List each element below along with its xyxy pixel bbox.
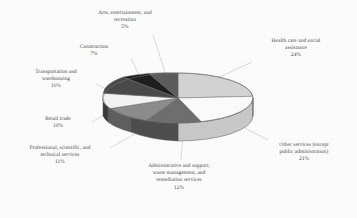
pie-label-transportation-warehousing-percent: 10%: [10, 83, 102, 90]
pie-label-professional-scientific: Professional, scientific, and technical …: [4, 145, 116, 167]
pie-label-administrative-support-percent: 12%: [118, 185, 240, 192]
leader-line-arts: [153, 35, 166, 75]
pie-label-other-services-line2: public administration): [254, 149, 354, 156]
pie-label-health-care-line2: assistance: [244, 45, 348, 52]
pie-label-administrative-support-line1: Administrative and support,: [118, 163, 240, 170]
pie-label-health-care: Health care and social assistance 24%: [244, 38, 348, 60]
pie-label-health-care-percent: 24%: [244, 52, 348, 59]
pie-label-transportation-warehousing-line1: Transportation and: [10, 69, 102, 76]
pie-label-professional-scientific-line2: technical services: [4, 152, 116, 159]
pie-label-arts-entertainment: Arts, entertainment, and recreation 5%: [70, 10, 180, 32]
pie-label-administrative-support-line3: remediation services: [118, 177, 240, 184]
pie-label-retail-trade-percent: 10%: [18, 123, 98, 130]
pie-label-arts-entertainment-percent: 5%: [70, 24, 180, 31]
pie-label-construction-percent: 7%: [52, 51, 136, 58]
pie-label-other-services: Other services (except public administra…: [254, 142, 354, 164]
pie-label-arts-entertainment-line2: recreation: [70, 17, 180, 24]
pie-label-other-services-line1: Other services (except: [254, 142, 354, 149]
pie-slice-health: [178, 73, 253, 98]
pie-label-transportation-warehousing-line2: warehousing: [10, 76, 102, 83]
pie-label-health-care-line1: Health care and social: [244, 38, 348, 45]
pie-chart-figure: Health care and social assistance 24% Ot…: [0, 0, 357, 218]
pie-label-construction-line1: Construction: [52, 44, 136, 51]
pie-label-transportation-warehousing: Transportation and warehousing 10%: [10, 69, 102, 91]
pie-label-arts-entertainment-line1: Arts, entertainment, and: [70, 10, 180, 17]
pie-label-construction: Construction 7%: [52, 44, 136, 58]
pie-label-retail-trade-line1: Retail trade: [18, 116, 98, 123]
pie-label-professional-scientific-percent: 11%: [4, 159, 116, 166]
pie-label-administrative-support: Administrative and support, waste manage…: [118, 163, 240, 192]
pie-label-administrative-support-line2: waste management, and: [118, 170, 240, 177]
pie-label-professional-scientific-line1: Professional, scientific, and: [4, 145, 116, 152]
pie-label-retail-trade: Retail trade 10%: [18, 116, 98, 130]
pie-label-other-services-percent: 21%: [254, 156, 354, 163]
